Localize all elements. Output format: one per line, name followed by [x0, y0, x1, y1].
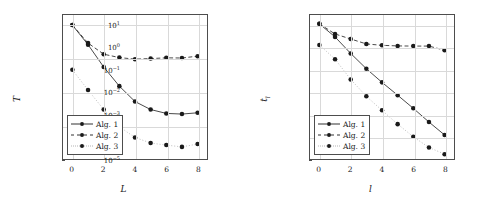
- gridline-horizontal: [310, 71, 454, 72]
- legend-line-sample: [71, 119, 93, 129]
- x-tick-label: 6: [411, 165, 416, 174]
- legend-line-segment: [84, 146, 93, 147]
- legend-line-segment: [318, 146, 327, 147]
- legend-line-sample: [318, 130, 340, 140]
- data-point-marker: [395, 122, 400, 127]
- legend-right: Alg. 1Alg. 2Alg. 3: [314, 115, 370, 155]
- legend-item: Alg. 3: [71, 141, 118, 151]
- gridline-vertical: [136, 15, 137, 159]
- legend-item: Alg. 2: [318, 130, 365, 140]
- legend-line-segment: [84, 135, 93, 136]
- legend-item: Alg. 3: [318, 141, 365, 151]
- legend-line-segment: [331, 135, 340, 136]
- legend-item: Alg. 2: [71, 130, 118, 140]
- legend-item: Alg. 1: [318, 119, 365, 129]
- gridline-horizontal: [310, 48, 454, 49]
- figure-two-panel-log-plots: T L 104103102101100 02468 Alg. 1Alg. 2Al…: [0, 0, 494, 198]
- legend-line-segment: [331, 146, 340, 147]
- data-point-marker: [364, 94, 369, 99]
- x-tick-label: 4: [380, 165, 385, 174]
- data-point-marker: [180, 112, 185, 117]
- legend-label: Alg. 3: [96, 142, 118, 151]
- data-point-marker: [86, 88, 91, 93]
- legend-line-segment: [71, 124, 80, 125]
- y-tick-label: 10−1: [104, 65, 120, 75]
- x-tick-label: 0: [316, 165, 321, 174]
- x-tick-label: 2: [101, 165, 106, 174]
- data-point-marker: [427, 120, 432, 125]
- data-point-marker: [427, 145, 432, 150]
- gridline-vertical: [415, 15, 416, 159]
- legend-marker-dot: [80, 133, 84, 137]
- data-point-marker: [333, 57, 338, 62]
- legend-item: Alg. 1: [71, 119, 118, 129]
- legend-marker-dot: [80, 144, 84, 148]
- data-point-marker: [333, 32, 338, 37]
- legend-marker-dot: [327, 144, 331, 148]
- y-axis-right: 10110010−110−210−310−410−5: [247, 0, 309, 198]
- gridline-vertical: [446, 15, 447, 159]
- gridline-horizontal: [310, 93, 454, 94]
- legend-label: Alg. 2: [96, 131, 118, 140]
- legend-line-segment: [331, 124, 340, 125]
- legend-label: Alg. 1: [96, 120, 118, 129]
- y-tick-label: 100: [108, 42, 120, 52]
- legend-line-segment: [84, 124, 93, 125]
- x-tick-label: 6: [164, 165, 169, 174]
- legend-marker-dot: [327, 133, 331, 137]
- legend-label: Alg. 3: [343, 142, 365, 151]
- legend-line-sample: [318, 141, 340, 151]
- data-point-marker: [148, 141, 153, 146]
- y-tick-label: 10−2: [104, 87, 120, 97]
- x-tick-label: 8: [196, 165, 201, 174]
- legend-marker-dot: [80, 122, 84, 126]
- plot-area-right: Alg. 1Alg. 2Alg. 3: [309, 14, 455, 160]
- series-line: [72, 25, 197, 59]
- legend-label: Alg. 1: [343, 120, 365, 129]
- legend-marker-dot: [327, 122, 331, 126]
- legend-line-sample: [71, 130, 93, 140]
- gridline-horizontal: [63, 59, 207, 60]
- legend-line-sample: [71, 141, 93, 151]
- legend-line-sample: [318, 119, 340, 129]
- x-axis-left: 02468: [62, 160, 208, 190]
- x-tick-label: 4: [133, 165, 138, 174]
- data-point-marker: [180, 145, 185, 150]
- legend-line-segment: [71, 135, 80, 136]
- plot-area-left: Alg. 1Alg. 2Alg. 3: [62, 14, 208, 160]
- panel-right: tl l 10110010−110−210−310−410−5 02468 Al…: [247, 0, 494, 198]
- panel-left: T L 104103102101100 02468 Alg. 1Alg. 2Al…: [0, 0, 247, 198]
- data-point-marker: [364, 42, 369, 47]
- x-axis-right: 02468: [309, 160, 455, 190]
- legend-line-segment: [71, 146, 80, 147]
- y-tick-label: 10−5: [104, 155, 120, 165]
- gridline-vertical: [199, 15, 200, 159]
- gridline-horizontal: [63, 93, 207, 94]
- gridline-horizontal: [310, 26, 454, 27]
- x-tick-label: 2: [348, 165, 353, 174]
- data-point-marker: [148, 107, 153, 112]
- x-tick-label: 0: [69, 165, 74, 174]
- data-point-marker: [86, 41, 91, 46]
- y-axis-left: 104103102101100: [0, 0, 62, 198]
- legend-left: Alg. 1Alg. 2Alg. 3: [67, 115, 123, 155]
- legend-line-segment: [318, 135, 327, 136]
- gridline-vertical: [168, 15, 169, 159]
- y-tick-label: 101: [108, 20, 120, 30]
- legend-label: Alg. 2: [343, 131, 365, 140]
- gridline-horizontal: [63, 25, 207, 26]
- gridline-vertical: [383, 15, 384, 159]
- legend-line-segment: [318, 124, 327, 125]
- x-tick-label: 8: [443, 165, 448, 174]
